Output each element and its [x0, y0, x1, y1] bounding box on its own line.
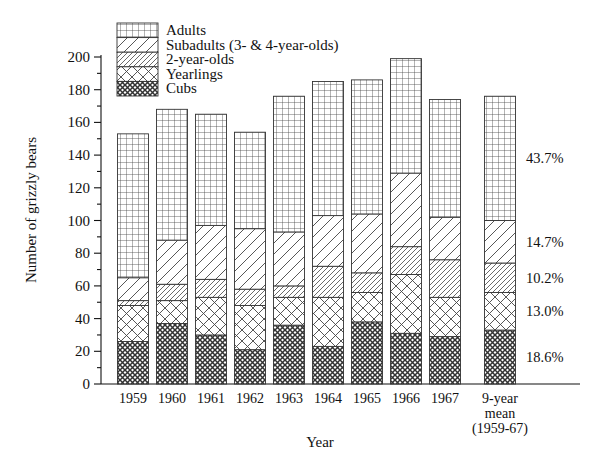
- bar-segment: [391, 247, 422, 275]
- y-tick-label: 60: [75, 278, 90, 294]
- percent-label: 18.6%: [526, 349, 563, 365]
- legend-swatch: [117, 23, 158, 38]
- bar-segment: [274, 96, 305, 232]
- bar-segment: [157, 240, 188, 284]
- bar-segment: [196, 225, 227, 279]
- x-tick-label: 1963: [275, 391, 303, 406]
- bar-segment: [391, 274, 422, 333]
- bar-segment: [235, 306, 266, 350]
- y-tick-label: 180: [68, 82, 91, 98]
- bar-segment: [391, 173, 422, 247]
- legend-label: 2-year-olds: [166, 51, 234, 67]
- y-tick-label: 100: [68, 213, 91, 229]
- x-tick-label: mean: [485, 406, 515, 421]
- y-tick-label: 140: [68, 147, 91, 163]
- bar-segment: [430, 100, 461, 218]
- bar-segment: [430, 217, 461, 260]
- bar-segment: [391, 333, 422, 384]
- chart-canvas: AdultsSubadults (3- & 4-year-olds)2-year…: [0, 0, 608, 465]
- y-tick-label: 40: [75, 311, 90, 327]
- x-tick-label: 1965: [353, 391, 381, 406]
- bar-segment: [313, 266, 344, 297]
- x-tick-labels: 1959196019611962196319641965196619679-ye…: [119, 391, 528, 437]
- legend-label: Adults: [166, 22, 206, 38]
- bar-segment: [196, 335, 227, 384]
- bar-segment: [313, 346, 344, 384]
- legend-swatch: [117, 38, 158, 53]
- bar-segment: [313, 216, 344, 267]
- grizzly-bear-stacked-bar-chart: AdultsSubadults (3- & 4-year-olds)2-year…: [0, 0, 608, 465]
- bar-segment: [157, 109, 188, 240]
- bar-segment: [485, 96, 516, 220]
- bar-segment: [274, 325, 305, 384]
- y-tick-label: 120: [68, 180, 91, 196]
- legend-label: Cubs: [166, 80, 197, 96]
- percent-label: 10.2%: [526, 270, 563, 286]
- y-tick-label: 200: [68, 49, 91, 65]
- bar-segment: [118, 341, 149, 384]
- bar-segment: [274, 286, 305, 297]
- y-tick-label: 20: [75, 343, 90, 359]
- bar-segment: [157, 324, 188, 384]
- x-tick-label: 1966: [392, 391, 420, 406]
- bar-segment: [196, 114, 227, 225]
- bar-segment: [352, 292, 383, 321]
- bar-segment: [118, 278, 149, 301]
- bar-segment: [118, 301, 149, 306]
- x-axis-title: Year: [306, 434, 334, 450]
- bar-segment: [235, 132, 266, 228]
- bar-segment: [430, 260, 461, 298]
- bar-segment: [235, 350, 266, 384]
- x-tick-label: 1967: [431, 391, 459, 406]
- bar-segment: [235, 289, 266, 305]
- bar-segment: [352, 80, 383, 214]
- legend-label: Yearlings: [166, 66, 223, 82]
- x-tick-label: 9-year: [482, 391, 518, 406]
- legend-swatch: [117, 67, 158, 82]
- bar-segment: [157, 301, 188, 324]
- legend-swatch: [117, 52, 158, 67]
- bar-segment: [157, 284, 188, 300]
- y-tick-label: 160: [68, 114, 91, 130]
- bar-segment: [274, 232, 305, 286]
- bar-segment: [485, 292, 516, 330]
- percent-label: 13.0%: [526, 303, 563, 319]
- x-tick-label: 1964: [314, 391, 342, 406]
- bar-segment: [274, 297, 305, 325]
- legend-swatch: [117, 81, 158, 96]
- y-tick-label: 80: [75, 245, 90, 261]
- bar-segment: [352, 273, 383, 293]
- bar-segment: [196, 279, 227, 297]
- bar-segment: [391, 59, 422, 173]
- bar-segment: [485, 263, 516, 292]
- x-tick-label: (1959-67): [472, 421, 528, 437]
- percent-label: 14.7%: [526, 234, 563, 250]
- bar-segment: [485, 330, 516, 384]
- x-tick-label: 1960: [158, 391, 186, 406]
- bar-segment: [430, 297, 461, 336]
- bar-segment: [313, 82, 344, 216]
- bar-segment: [118, 306, 149, 342]
- bar-segment: [352, 214, 383, 273]
- bar-segment: [235, 229, 266, 289]
- percent-label: 43.7%: [526, 150, 563, 166]
- legend: AdultsSubadults (3- & 4-year-olds)2-year…: [117, 22, 339, 96]
- x-tick-label: 1961: [197, 391, 225, 406]
- y-axis-title: Number of grizzly bears: [23, 137, 39, 283]
- bar-segment: [352, 322, 383, 384]
- bars: [118, 59, 516, 384]
- percent-labels: 18.6%13.0%10.2%14.7%43.7%: [526, 150, 563, 365]
- bar-segment: [313, 297, 344, 346]
- bar-segment: [118, 134, 149, 278]
- bar-segment: [485, 221, 516, 264]
- x-tick-label: 1959: [119, 391, 147, 406]
- bar-segment: [430, 337, 461, 384]
- bar-segment: [196, 297, 227, 335]
- y-tick-label: 0: [83, 376, 91, 392]
- x-tick-label: 1962: [236, 391, 264, 406]
